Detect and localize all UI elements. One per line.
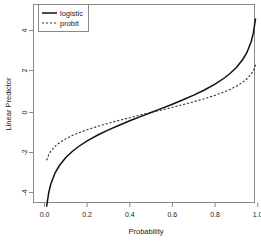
x-tick-label: 0.4	[125, 211, 135, 218]
linear-predictor-chart: 4 2 0 -2 -4 Linear Predictor 0.0 0.2 0.4…	[0, 0, 261, 246]
y-tick-label: 2	[21, 68, 28, 72]
y-axis-title: Linear Predictor	[4, 77, 13, 130]
legend-label-logistic: logistic	[60, 9, 83, 18]
chart-container: 4 2 0 -2 -4 Linear Predictor 0.0 0.2 0.4…	[0, 0, 261, 246]
series-line-logistic	[47, 18, 256, 206]
y-tick-label: -4	[21, 189, 28, 195]
y-tick-label: 4	[21, 28, 28, 32]
legend-label-probit: probit	[60, 19, 80, 28]
y-axis-tick-labels: 4 2 0 -2 -4	[21, 28, 28, 195]
x-tick-label: 0.8	[210, 211, 220, 218]
x-axis-ticks	[45, 203, 258, 208]
chart-legend: logistic probit	[39, 5, 89, 32]
y-axis-ticks	[29, 31, 34, 193]
x-axis-title: Probability	[128, 227, 163, 236]
x-axis-tick-labels: 0.0 0.2 0.4 0.6 0.8 1.0	[40, 211, 261, 218]
x-tick-label: 0.0	[40, 211, 50, 218]
y-tick-label: -2	[21, 149, 28, 155]
plot-panel-border	[34, 5, 255, 203]
y-tick-label: 0	[21, 110, 28, 114]
x-tick-label: 1.0	[253, 211, 261, 218]
x-tick-label: 0.6	[168, 211, 178, 218]
x-tick-label: 0.2	[82, 211, 92, 218]
